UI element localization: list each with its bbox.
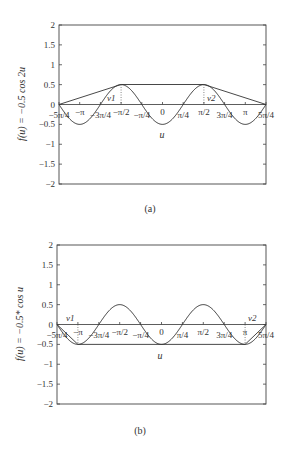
panel-a: 21.510.50−0.5−1−1.5−2 −5π/4−π−3π/4−π/2−π…	[16, 20, 275, 215]
x-tick-label: π/2	[198, 107, 210, 117]
x-tick-label: −π	[75, 107, 85, 117]
x-axis-label-b: u	[158, 350, 163, 361]
y-tick-label: −1	[43, 359, 53, 369]
x-tick-label: −5π/4	[46, 330, 68, 340]
y-tick-label: −2	[45, 179, 55, 189]
y-tick-label: 0.5	[44, 80, 56, 90]
y-tick-label: 0.5	[42, 300, 54, 310]
x-tick-label: 0	[159, 327, 164, 337]
y-axis-label-b: f(u) = −0.5* cos u	[14, 287, 26, 361]
y-tick-label: 1.5	[42, 260, 54, 270]
y-tick-label: 0	[51, 100, 56, 110]
x-tick-label: −π/4	[133, 110, 150, 120]
y-tick-label: 1	[51, 60, 56, 70]
y-tick-label: 0	[49, 320, 54, 330]
x-axis-label-a: u	[160, 129, 165, 140]
y-axis-label-a: f(u) = −0.5 cos 2u	[16, 67, 28, 141]
x-tick-label: 0	[160, 107, 165, 117]
x-tick-label: 5π/4	[258, 110, 275, 120]
x-tick-label: π	[243, 107, 248, 117]
x-tick-label: −π/4	[132, 330, 149, 340]
y-tick-label: 1	[49, 280, 54, 290]
y-tick-label: 1.5	[44, 40, 56, 50]
x-tick-label: 5π/4	[258, 330, 275, 340]
figure: 21.510.50−0.5−1−1.5−2 −5π/4−π−3π/4−π/2−π…	[0, 0, 282, 454]
x-tick-label: 3π/4	[217, 110, 234, 120]
x-tick-label: π/2	[198, 327, 210, 337]
caption-b: (b)	[134, 425, 146, 437]
panel-b: 21.510.50−0.5−1−1.5−2 −5π/4−π−3π/4−π/2−π…	[14, 240, 275, 437]
y-tick-label: −1	[45, 139, 55, 149]
v1-label-b: ν1	[66, 313, 75, 323]
x-tick-label: −π/2	[111, 327, 128, 337]
x-tick-label: −5π/4	[48, 110, 70, 120]
y-tick-label: 2	[49, 240, 54, 250]
y-tick-label: −1.5	[37, 379, 54, 389]
y-tick-label: −0.5	[37, 339, 54, 349]
v2-label-a: ν2	[207, 93, 216, 103]
caption-a: (a)	[144, 203, 155, 215]
x-tick-label: 3π/4	[216, 330, 233, 340]
x-tick-label: −π/2	[113, 107, 130, 117]
v2-label-b: ν2	[248, 313, 257, 323]
v1-label-a: ν1	[107, 93, 116, 103]
y-tick-label: 2	[51, 20, 56, 30]
y-tick-label: −0.5	[39, 119, 56, 129]
y-tick-label: −1.5	[39, 159, 56, 169]
y-tick-label: −2	[43, 399, 53, 409]
envelope-a	[59, 85, 266, 105]
